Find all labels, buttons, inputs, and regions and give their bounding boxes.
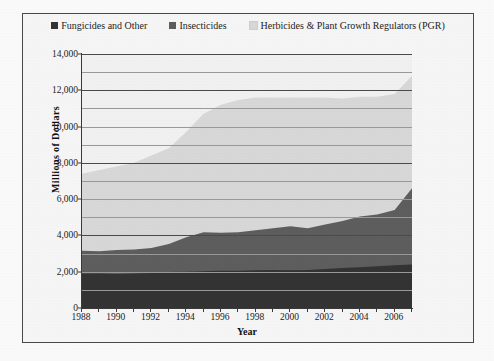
x-tick-mark <box>185 308 186 312</box>
legend-item-fungicides: Fungicides and Other <box>51 20 147 31</box>
legend-swatch-herbicides <box>249 21 258 30</box>
gridline <box>82 272 412 273</box>
legend-label-insecticides: Insecticides <box>179 20 226 31</box>
chart-page: Fungicides and Other Insecticides Herbic… <box>0 0 494 361</box>
x-tick-mark <box>168 308 169 312</box>
gridline <box>82 90 412 91</box>
gridline <box>82 181 412 182</box>
gridline <box>82 290 412 291</box>
x-tick-mark <box>272 308 273 312</box>
legend-swatch-fungicides <box>51 22 58 29</box>
gridline <box>82 72 412 73</box>
legend-label-fungicides: Fungicides and Other <box>61 20 147 31</box>
y-tick-label: 6,000 <box>26 194 78 204</box>
x-tick-mark <box>150 308 151 312</box>
legend-swatch-insecticides <box>169 22 176 29</box>
x-tick-mark <box>359 308 360 312</box>
x-tick-label: 1998 <box>245 312 264 322</box>
x-tick-mark <box>394 308 395 312</box>
x-tick-mark <box>376 308 377 312</box>
x-tick-mark <box>116 308 117 312</box>
x-tick-label: 2000 <box>280 312 299 322</box>
y-tick-label: 12,000 <box>26 85 78 95</box>
y-tick-label: 14,000 <box>26 49 78 59</box>
gridline <box>82 235 412 236</box>
x-tick-mark <box>289 308 290 312</box>
x-tick-mark <box>98 308 99 312</box>
gridline <box>82 217 412 218</box>
x-axis-title: Year <box>81 326 413 337</box>
y-tick-label: 2,000 <box>26 267 78 277</box>
gridline <box>82 254 412 255</box>
gridline <box>82 54 412 55</box>
gridline <box>82 145 412 146</box>
gridline <box>82 163 412 164</box>
x-tick-mark <box>307 308 308 312</box>
x-tick-mark <box>237 308 238 312</box>
y-tick-label: 10,000 <box>26 122 78 132</box>
x-tick-mark <box>203 308 204 312</box>
y-tick-label: 4,000 <box>26 230 78 240</box>
chart-legend: Fungicides and Other Insecticides Herbic… <box>23 20 473 31</box>
x-tick-mark <box>342 308 343 312</box>
legend-item-insecticides: Insecticides <box>169 20 226 31</box>
x-tick-label: 1988 <box>72 312 91 322</box>
plot-area <box>82 54 412 308</box>
x-tick-mark <box>220 308 221 312</box>
x-tick-mark <box>133 308 134 312</box>
gridline <box>82 108 412 109</box>
chart-frame: Fungicides and Other Insecticides Herbic… <box>22 13 474 343</box>
x-tick-label: 2006 <box>384 312 403 322</box>
x-tick-label: 1994 <box>176 312 195 322</box>
x-tick-label: 2002 <box>315 312 334 322</box>
x-tick-mark <box>411 308 412 312</box>
gridline <box>82 127 412 128</box>
x-tick-label: 1996 <box>210 312 229 322</box>
y-tick-label: 8,000 <box>26 158 78 168</box>
x-tick-label: 2004 <box>349 312 368 322</box>
x-tick-mark <box>324 308 325 312</box>
y-tick-label: 0 <box>26 303 78 313</box>
x-tick-mark <box>81 308 82 312</box>
x-tick-mark <box>255 308 256 312</box>
gridline <box>82 199 412 200</box>
y-axis-labels: 02,0004,0006,0008,00010,00012,00014,000 <box>23 54 78 308</box>
x-tick-label: 1990 <box>106 312 125 322</box>
legend-item-herbicides: Herbicides & Plant Growth Regulators (PG… <box>249 20 445 31</box>
x-axis-line <box>81 308 413 309</box>
legend-label-herbicides: Herbicides & Plant Growth Regulators (PG… <box>261 20 445 31</box>
x-tick-label: 1992 <box>141 312 160 322</box>
